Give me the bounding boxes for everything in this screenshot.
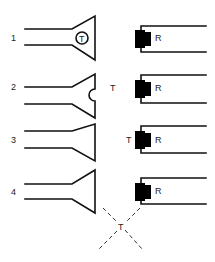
receiver-label-4: R xyxy=(155,186,162,196)
receiver-1: R xyxy=(135,26,206,52)
receiver-3: R xyxy=(135,126,206,153)
transmitter-label-3: T xyxy=(126,135,132,145)
receiver-label-2: R xyxy=(155,83,162,93)
receiver-4: R xyxy=(135,178,206,204)
horn-1: T xyxy=(25,16,95,60)
receiver-block-icon xyxy=(135,183,151,201)
receiver-block-icon xyxy=(135,30,151,48)
row-number-2: 2 xyxy=(11,82,16,92)
row-2: 2 T R xyxy=(11,74,206,118)
receiver-block-icon xyxy=(135,131,151,149)
horn-2 xyxy=(25,74,95,118)
receiver-block-icon xyxy=(135,80,151,98)
receiver-label-1: R xyxy=(155,33,162,43)
diagram-canvas: 1 T R 2 T R 3 T xyxy=(0,0,215,262)
row-number-4: 4 xyxy=(11,187,16,197)
transmitter-label-1: T xyxy=(79,34,85,44)
receiver-label-3: R xyxy=(155,135,162,145)
horn-3 xyxy=(25,124,95,161)
row-3: 3 T R xyxy=(11,124,206,161)
row-1: 1 T R xyxy=(11,16,206,60)
horn-4 xyxy=(25,170,95,213)
row-4: 4 R T xyxy=(11,170,206,250)
row-number-1: 1 xyxy=(11,33,16,43)
transmitter-label-2: T xyxy=(110,83,116,93)
transmitter-label-4: T xyxy=(118,222,124,232)
dashed-cross-transmitter: T xyxy=(98,208,143,250)
row-number-3: 3 xyxy=(11,135,16,145)
receiver-2: R xyxy=(135,75,206,103)
